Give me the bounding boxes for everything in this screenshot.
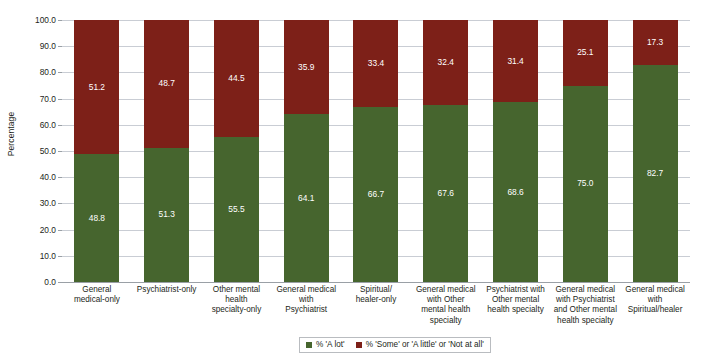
bar-group: 48.751.3 — [144, 20, 189, 282]
x-axis-category-label: Other mentalhealthspecialty-only — [202, 285, 272, 316]
bar-segment-a-lot: 67.6 — [423, 105, 468, 282]
x-axis-category-line: Psychiatrist with — [481, 285, 551, 295]
bar-group: 32.467.6 — [423, 20, 468, 282]
y-tick-label: 0.0 — [44, 277, 56, 287]
bar-segment-some-little-none: 25.1 — [563, 20, 608, 86]
bar-value-label: 82.7 — [633, 168, 678, 178]
bar-value-label: 48.8 — [74, 213, 119, 223]
bar-value-label: 17.3 — [633, 37, 678, 47]
x-axis-category-line: Spiritual/healer — [620, 305, 690, 315]
y-tick-mark — [58, 177, 62, 178]
x-axis-baseline — [62, 282, 690, 283]
bar-value-label: 35.9 — [284, 62, 329, 72]
legend-label: % 'A lot' — [316, 340, 345, 349]
bar-group: 51.248.8 — [74, 20, 119, 282]
x-axis-category-line: specialty-only — [202, 305, 272, 315]
x-axis-category-label: General medicalwith Psychiatristand Othe… — [550, 285, 620, 326]
x-axis-category-line: healer-only — [341, 295, 411, 305]
x-axis-category-labels: Generalmedical-onlyPsychiatrist-onlyOthe… — [62, 285, 690, 333]
legend-swatch-icon — [306, 342, 312, 348]
bar-value-label: 67.6 — [423, 188, 468, 198]
y-tick-mark — [58, 230, 62, 231]
y-tick-mark — [58, 151, 62, 152]
x-axis-category-line: health — [202, 295, 272, 305]
x-axis-category-line: with Other — [411, 295, 481, 305]
y-tick-label: 40.0 — [40, 172, 56, 182]
bar-segment-a-lot: 48.8 — [74, 154, 119, 282]
bar-value-label: 51.3 — [144, 209, 189, 219]
bar-segment-some-little-none: 31.4 — [493, 20, 538, 102]
bar-segment-some-little-none: 48.7 — [144, 20, 189, 148]
x-axis-category-line: General medical — [271, 285, 341, 295]
chart-legend: % 'A lot'% 'Some' or 'A little' or 'Not … — [299, 337, 491, 353]
y-tick-mark — [58, 20, 62, 21]
y-tick-label: 60.0 — [40, 120, 56, 130]
bar-segment-some-little-none: 32.4 — [423, 20, 468, 105]
x-axis-category-label: Spiritual/healer-only — [341, 285, 411, 305]
x-axis-category-label: Psychiatrist withOther mentalhealth spec… — [481, 285, 551, 316]
legend-entry: % 'A lot' — [306, 340, 345, 349]
x-axis-category-line: Other mental — [202, 285, 272, 295]
bar-value-label: 66.7 — [353, 189, 398, 199]
bar-segment-a-lot: 66.7 — [353, 107, 398, 282]
x-axis-category-line: health specialty — [481, 305, 551, 315]
bar-segment-a-lot: 55.5 — [214, 137, 259, 282]
plot-area: 0.010.020.030.040.050.060.070.080.090.01… — [62, 20, 690, 282]
bar-segment-some-little-none: 51.2 — [74, 20, 119, 154]
bar-segment-some-little-none: 35.9 — [284, 20, 329, 114]
bar-value-label: 31.4 — [493, 56, 538, 66]
x-axis-category-label: Generalmedical-only — [62, 285, 132, 305]
y-tick-mark — [58, 72, 62, 73]
y-tick-label: 70.0 — [40, 94, 56, 104]
bar-group: 33.466.7 — [353, 20, 398, 282]
y-tick-mark — [58, 282, 62, 283]
x-axis-category-line: medical-only — [62, 295, 132, 305]
x-axis-category-label: General medicalwithPsychiatrist — [271, 285, 341, 316]
x-axis-category-line: General medical — [550, 285, 620, 295]
y-tick-mark — [58, 125, 62, 126]
x-axis-category-line: and Other mental — [550, 305, 620, 315]
x-axis-category-line: General medical — [620, 285, 690, 295]
bar-value-label: 48.7 — [144, 78, 189, 88]
bar-segment-a-lot: 51.3 — [144, 148, 189, 282]
x-axis-category-line: mental health — [411, 305, 481, 315]
bar-value-label: 68.6 — [493, 187, 538, 197]
y-tick-mark — [58, 99, 62, 100]
x-axis-category-line: Spiritual/ — [341, 285, 411, 295]
x-axis-category-line: with — [271, 295, 341, 305]
y-tick-label: 50.0 — [40, 146, 56, 156]
y-tick-label: 100.0 — [35, 15, 56, 25]
y-tick-mark — [58, 46, 62, 47]
x-axis-category-line: Other mental — [481, 295, 551, 305]
x-axis-category-line: with Psychiatrist — [550, 295, 620, 305]
x-axis-category-label: Psychiatrist-only — [132, 285, 202, 295]
bar-group: 44.555.5 — [214, 20, 259, 282]
y-tick-label: 90.0 — [40, 41, 56, 51]
bar-value-label: 33.4 — [353, 58, 398, 68]
x-axis-category-line: with — [620, 295, 690, 305]
y-tick-label: 10.0 — [40, 251, 56, 261]
y-tick-label: 20.0 — [40, 225, 56, 235]
x-axis-category-line: health specialty — [550, 316, 620, 326]
bar-segment-some-little-none: 44.5 — [214, 20, 259, 137]
bar-segment-some-little-none: 33.4 — [353, 20, 398, 108]
y-tick-mark — [58, 203, 62, 204]
legend-entry: % 'Some' or 'A little' or 'Not at all' — [356, 340, 484, 349]
legend-label: % 'Some' or 'A little' or 'Not at all' — [366, 340, 484, 349]
x-axis-category-line: Psychiatrist — [271, 305, 341, 315]
bar-group: 35.964.1 — [284, 20, 329, 282]
bar-group: 25.175.0 — [563, 20, 608, 282]
bar-group: 31.468.6 — [493, 20, 538, 282]
bar-value-label: 44.5 — [214, 73, 259, 83]
legend-swatch-icon — [356, 342, 362, 348]
x-axis-category-line: Psychiatrist-only — [132, 285, 202, 295]
x-axis-category-line: specialty — [411, 316, 481, 326]
bar-value-label: 64.1 — [284, 193, 329, 203]
bar-group: 17.382.7 — [633, 20, 678, 282]
bar-value-label: 55.5 — [214, 204, 259, 214]
x-axis-category-label: General medicalwith Othermental healthsp… — [411, 285, 481, 326]
bar-segment-some-little-none: 17.3 — [633, 20, 678, 65]
x-axis-category-line: General — [62, 285, 132, 295]
x-axis-category-label: General medicalwithSpiritual/healer — [620, 285, 690, 316]
bar-segment-a-lot: 75.0 — [563, 86, 608, 283]
